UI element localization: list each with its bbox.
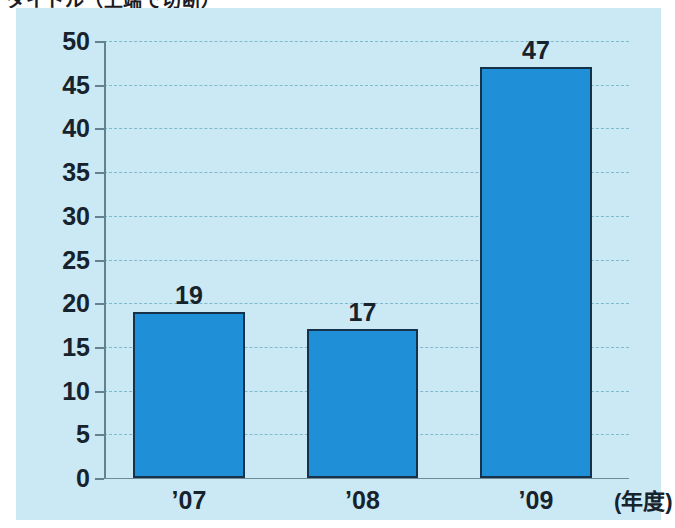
y-tick-label: 5 bbox=[76, 422, 90, 447]
y-tick-mark bbox=[95, 434, 104, 436]
x-tick-label: ’09 bbox=[519, 488, 554, 513]
bar-value-label: 17 bbox=[349, 300, 377, 325]
y-tick-label: 40 bbox=[62, 116, 90, 141]
x-axis-title: (年度) bbox=[614, 491, 673, 513]
y-tick-mark bbox=[95, 303, 104, 305]
bar-value-label: 47 bbox=[522, 38, 550, 63]
bar: 17 bbox=[307, 329, 418, 478]
plot-area: 05101520253035404550 191747 ’07’08’09 (年… bbox=[104, 41, 629, 478]
y-tick-label: 10 bbox=[62, 378, 90, 403]
cropped-title-sliver: タイトル（上端で切断） bbox=[0, 0, 675, 8]
x-tick-label: ’08 bbox=[345, 488, 380, 513]
chart-panel: 05101520253035404550 191747 ’07’08’09 (年… bbox=[16, 8, 661, 520]
y-tick-label: 20 bbox=[62, 291, 90, 316]
y-tick-label: 0 bbox=[76, 466, 90, 491]
y-tick-mark bbox=[95, 216, 104, 218]
y-tick-mark bbox=[95, 41, 104, 43]
chart-page: タイトル（上端で切断） 05101520253035404550 191747 … bbox=[0, 0, 675, 528]
bar: 19 bbox=[133, 312, 245, 478]
x-tick-label: ’07 bbox=[172, 488, 207, 513]
y-tick-label: 35 bbox=[62, 160, 90, 185]
bar: 47 bbox=[480, 67, 592, 478]
axis-baseline bbox=[104, 478, 629, 479]
y-tick-mark bbox=[95, 172, 104, 174]
y-tick-mark bbox=[95, 128, 104, 130]
y-tick-mark bbox=[95, 478, 104, 480]
y-tick-mark bbox=[95, 85, 104, 87]
y-tick-label: 50 bbox=[62, 29, 90, 54]
y-tick-label: 15 bbox=[62, 334, 90, 359]
cropped-title-text: タイトル（上端で切断） bbox=[6, 0, 221, 8]
y-tick-mark bbox=[95, 347, 104, 349]
bar-value-label: 19 bbox=[175, 283, 203, 308]
y-tick-label: 45 bbox=[62, 72, 90, 97]
y-tick-mark bbox=[95, 391, 104, 393]
y-tick-label: 30 bbox=[62, 203, 90, 228]
y-tick-label: 25 bbox=[62, 247, 90, 272]
y-axis-line bbox=[104, 41, 106, 478]
y-tick-mark bbox=[95, 260, 104, 262]
gridline bbox=[104, 41, 629, 42]
